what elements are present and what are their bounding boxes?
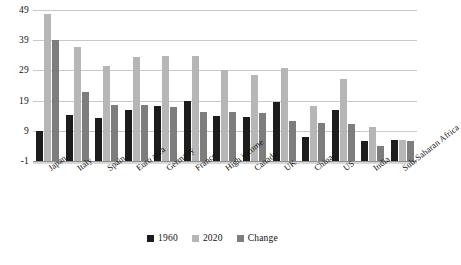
x-tick-cell: Japan [33, 161, 63, 231]
bar [192, 56, 199, 161]
x-tick-cell: France [181, 161, 211, 231]
bar-groups [33, 10, 417, 161]
x-tick-cell: High income [210, 161, 240, 231]
bar [340, 79, 347, 161]
bar [348, 124, 355, 161]
bar-group [33, 10, 63, 161]
legend-swatch-icon [237, 235, 244, 242]
legend-item: Change [237, 233, 278, 243]
bar [44, 14, 51, 161]
bar [125, 110, 132, 161]
bar-group [92, 10, 122, 161]
bar [310, 106, 317, 161]
bar-group [299, 10, 329, 161]
bar-group [328, 10, 358, 161]
bar [74, 47, 81, 161]
bar [361, 141, 368, 161]
y-tick-label: 39 [19, 35, 29, 45]
bar [170, 107, 177, 161]
x-tick-cell: Canada [240, 161, 270, 231]
bar-group [240, 10, 270, 161]
y-tick-label: 9 [24, 126, 29, 136]
y-tick-label: 19 [19, 96, 29, 106]
bar [133, 57, 140, 161]
bar-group [210, 10, 240, 161]
bar [111, 105, 118, 161]
x-tick-cell: Italy [63, 161, 93, 231]
bar [221, 70, 228, 161]
bar [82, 92, 89, 161]
bar [399, 140, 406, 161]
legend-item: 1960 [147, 233, 178, 243]
bar-group [63, 10, 93, 161]
bar-group [151, 10, 181, 161]
bar [141, 105, 148, 161]
x-tick-cell: Germany [151, 161, 181, 231]
bar [332, 110, 339, 161]
bar [302, 137, 309, 161]
bar [103, 66, 110, 161]
legend-label: Change [248, 233, 278, 243]
y-tick-label: 29 [19, 65, 29, 75]
legend-swatch-icon [147, 235, 154, 242]
x-tick-cell: China [299, 161, 329, 231]
bar [162, 56, 169, 161]
chart-legend: 19602020Change [0, 233, 425, 243]
bar-group [122, 10, 152, 161]
y-tick-label: 49 [19, 5, 29, 15]
bar [281, 68, 288, 161]
bar-group [269, 10, 299, 161]
bar [36, 131, 43, 161]
x-axis: JapanItalySpainEuro areaGermanyFranceHig… [33, 161, 417, 231]
bar [289, 121, 296, 161]
legend-label: 2020 [203, 233, 223, 243]
y-axis: -1919293949 [0, 10, 29, 161]
x-tick-cell: US [328, 161, 358, 231]
x-tick-cell: Sub-Saharan Africa [387, 161, 417, 231]
x-tick-cell: India [358, 161, 388, 231]
legend-item: 2020 [192, 233, 223, 243]
plot-area [33, 10, 417, 161]
legend-label: 1960 [158, 233, 178, 243]
bar [391, 140, 398, 161]
bar [95, 118, 102, 161]
bar [369, 127, 376, 161]
bar-group [387, 10, 417, 161]
x-axis-labels: JapanItalySpainEuro areaGermanyFranceHig… [33, 161, 417, 231]
x-tick-cell: UK [269, 161, 299, 231]
x-tick-label: US [341, 158, 356, 173]
y-tick-label: -1 [21, 156, 29, 166]
x-tick-cell: Spain [92, 161, 122, 231]
bar [66, 115, 73, 161]
bar-group [181, 10, 211, 161]
bar-group [358, 10, 388, 161]
bar [52, 40, 59, 161]
legend-swatch-icon [192, 235, 199, 242]
x-tick-cell: Euro area [122, 161, 152, 231]
